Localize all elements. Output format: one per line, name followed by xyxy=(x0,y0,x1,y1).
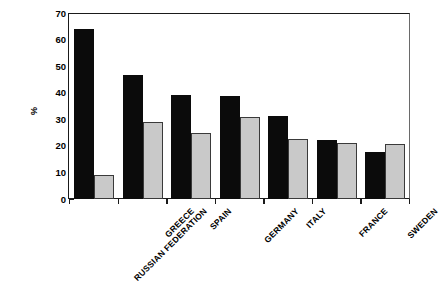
x-axis-label-spain: SPAIN xyxy=(208,206,234,232)
x-axis-label-sweden: SWEDEN xyxy=(406,206,440,240)
x-tick-mark xyxy=(166,199,167,204)
bar-group xyxy=(215,14,264,199)
x-axis-label-russian-federation: RUSSIAN FEDERATION xyxy=(132,206,209,283)
bar-series-1 xyxy=(317,140,337,199)
y-tick-label: 30 xyxy=(55,114,66,126)
x-tick-mark xyxy=(312,199,313,204)
bar-series-2 xyxy=(191,133,211,199)
x-axis-label-germany: GERMANY xyxy=(262,206,301,245)
bar-group xyxy=(118,14,167,199)
bar-series-1 xyxy=(220,96,240,199)
bar-series-2 xyxy=(288,139,308,199)
y-tick-label: 0 xyxy=(61,194,66,206)
x-axis-label-france: FRANCE xyxy=(357,206,390,239)
bars-area xyxy=(69,14,409,199)
y-tick-label: 60 xyxy=(55,34,66,46)
x-tick-mark xyxy=(118,199,119,204)
bar-group xyxy=(360,14,409,199)
y-tick-label: 40 xyxy=(55,87,66,99)
x-tick-mark xyxy=(409,199,410,204)
bar-group xyxy=(69,14,118,199)
bar-group xyxy=(263,14,312,199)
x-tick-mark xyxy=(215,199,216,204)
x-tick-mark xyxy=(69,199,70,204)
bar-series-2 xyxy=(385,144,405,199)
bar-series-1 xyxy=(123,75,143,199)
y-tick-label: 70 xyxy=(55,8,66,20)
bar-group xyxy=(166,14,215,199)
bar-series-1 xyxy=(171,95,191,199)
x-tick-mark xyxy=(263,199,264,204)
y-tick-label: 10 xyxy=(55,167,66,179)
bar-series-2 xyxy=(143,122,163,199)
bar-group xyxy=(312,14,361,199)
bar-series-1 xyxy=(74,29,94,199)
y-tick-label: 20 xyxy=(55,140,66,152)
bar-series-2 xyxy=(94,175,114,199)
bar-series-2 xyxy=(337,143,357,199)
y-tick-label: 50 xyxy=(55,61,66,73)
x-tick-mark xyxy=(360,199,361,204)
bar-series-1 xyxy=(365,152,385,199)
bar-series-1 xyxy=(268,116,288,199)
x-axis-label-italy: ITALY xyxy=(304,206,328,230)
bar-series-2 xyxy=(240,117,260,199)
